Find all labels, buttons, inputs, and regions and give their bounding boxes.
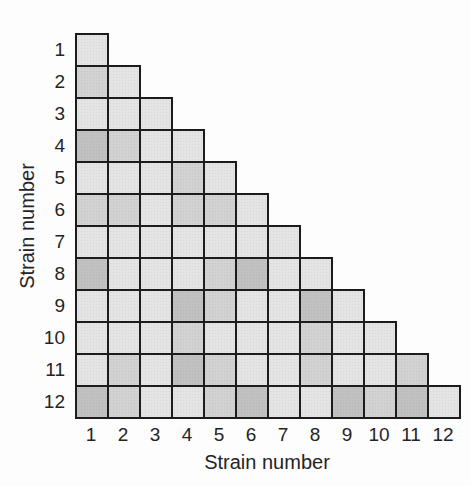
matrix-cell-r4-c1 bbox=[75, 129, 109, 163]
matrix-cell-r9-c1 bbox=[75, 289, 109, 323]
matrix-cell-r11-c11 bbox=[395, 353, 429, 387]
y-tick-label-3: 3 bbox=[40, 97, 75, 131]
y-tick-label-9: 9 bbox=[40, 289, 75, 323]
matrix-cell-r11-c5 bbox=[203, 353, 237, 387]
matrix-cell-r4-c2 bbox=[107, 129, 141, 163]
matrix-cell-r7-c6 bbox=[235, 225, 269, 259]
matrix-cell-r8-c6 bbox=[235, 257, 269, 291]
matrix-cell-r10-c7 bbox=[267, 321, 301, 355]
matrix-cell-r12-c3 bbox=[139, 385, 173, 419]
matrix-cell-r9-c3 bbox=[139, 289, 173, 323]
y-tick-label-6: 6 bbox=[40, 193, 75, 227]
matrix-cell-r8-c3 bbox=[139, 257, 173, 291]
matrix-cell-r5-c4 bbox=[171, 161, 205, 195]
matrix-cell-r11-c8 bbox=[299, 353, 333, 387]
matrix-cell-r9-c8 bbox=[299, 289, 333, 323]
x-tick-label-6: 6 bbox=[235, 424, 267, 446]
matrix-cell-r7-c2 bbox=[107, 225, 141, 259]
matrix-cell-r8-c8 bbox=[299, 257, 333, 291]
y-tick-label-7: 7 bbox=[40, 225, 75, 259]
matrix-row-1: 1 bbox=[40, 33, 461, 67]
y-tick-label-11: 11 bbox=[40, 353, 75, 387]
y-tick-label-8: 8 bbox=[40, 257, 75, 291]
matrix-cell-r10-c6 bbox=[235, 321, 269, 355]
matrix-row-6: 6 bbox=[40, 193, 461, 227]
matrix-cell-r8-c1 bbox=[75, 257, 109, 291]
matrix-cell-r8-c7 bbox=[267, 257, 301, 291]
matrix-cell-r2-c1 bbox=[75, 65, 109, 99]
matrix-row-11: 11 bbox=[40, 353, 461, 387]
strain-similarity-matrix-figure: Strain number 123456789101112 1234567891… bbox=[0, 0, 471, 486]
matrix-cell-r6-c4 bbox=[171, 193, 205, 227]
x-axis-title: Strain number bbox=[75, 451, 459, 474]
matrix-cell-r5-c5 bbox=[203, 161, 237, 195]
matrix-cell-r6-c2 bbox=[107, 193, 141, 227]
y-tick-label-4: 4 bbox=[40, 129, 75, 163]
matrix-cell-r11-c7 bbox=[267, 353, 301, 387]
matrix-cell-r1-c1 bbox=[75, 33, 109, 67]
matrix-cell-r9-c6 bbox=[235, 289, 269, 323]
matrix-cell-r9-c4 bbox=[171, 289, 205, 323]
matrix-row-12: 12 bbox=[40, 385, 461, 419]
matrix-cell-r11-c4 bbox=[171, 353, 205, 387]
matrix-cell-r4-c4 bbox=[171, 129, 205, 163]
matrix-cell-r10-c8 bbox=[299, 321, 333, 355]
triangular-matrix: 123456789101112 bbox=[40, 33, 461, 419]
matrix-cell-r9-c5 bbox=[203, 289, 237, 323]
matrix-cell-r10-c10 bbox=[363, 321, 397, 355]
x-tick-label-1: 1 bbox=[75, 424, 107, 446]
matrix-cell-r9-c9 bbox=[331, 289, 365, 323]
matrix-cell-r11-c10 bbox=[363, 353, 397, 387]
y-tick-label-2: 2 bbox=[40, 65, 75, 99]
matrix-cell-r9-c2 bbox=[107, 289, 141, 323]
matrix-cell-r12-c4 bbox=[171, 385, 205, 419]
matrix-cell-r12-c10 bbox=[363, 385, 397, 419]
matrix-cell-r12-c7 bbox=[267, 385, 301, 419]
matrix-cell-r5-c3 bbox=[139, 161, 173, 195]
matrix-cell-r6-c5 bbox=[203, 193, 237, 227]
matrix-row-4: 4 bbox=[40, 129, 461, 163]
y-axis-title: Strain number bbox=[16, 46, 40, 406]
matrix-cell-r4-c3 bbox=[139, 129, 173, 163]
matrix-cell-r10-c4 bbox=[171, 321, 205, 355]
matrix-cell-r12-c8 bbox=[299, 385, 333, 419]
matrix-cell-r12-c2 bbox=[107, 385, 141, 419]
matrix-cell-r2-c2 bbox=[107, 65, 141, 99]
matrix-row-9: 9 bbox=[40, 289, 461, 323]
x-tick-label-2: 2 bbox=[107, 424, 139, 446]
x-tick-label-5: 5 bbox=[203, 424, 235, 446]
matrix-row-2: 2 bbox=[40, 65, 461, 99]
matrix-cell-r11-c6 bbox=[235, 353, 269, 387]
matrix-cell-r10-c3 bbox=[139, 321, 173, 355]
matrix-cell-r7-c3 bbox=[139, 225, 173, 259]
matrix-cell-r12-c6 bbox=[235, 385, 269, 419]
matrix-cell-r6-c3 bbox=[139, 193, 173, 227]
matrix-cell-r12-c9 bbox=[331, 385, 365, 419]
x-axis-tick-labels: 123456789101112 bbox=[75, 424, 459, 446]
matrix-cell-r5-c2 bbox=[107, 161, 141, 195]
matrix-cell-r8-c4 bbox=[171, 257, 205, 291]
matrix-cell-r11-c1 bbox=[75, 353, 109, 387]
matrix-row-7: 7 bbox=[40, 225, 461, 259]
matrix-cell-r7-c4 bbox=[171, 225, 205, 259]
x-tick-label-11: 11 bbox=[395, 424, 427, 446]
matrix-cell-r3-c2 bbox=[107, 97, 141, 131]
matrix-cell-r10-c9 bbox=[331, 321, 365, 355]
matrix-cell-r10-c2 bbox=[107, 321, 141, 355]
matrix-cell-r10-c5 bbox=[203, 321, 237, 355]
matrix-cell-r8-c2 bbox=[107, 257, 141, 291]
y-tick-label-10: 10 bbox=[40, 321, 75, 355]
matrix-cell-r7-c1 bbox=[75, 225, 109, 259]
matrix-row-10: 10 bbox=[40, 321, 461, 355]
matrix-cell-r6-c1 bbox=[75, 193, 109, 227]
matrix-row-8: 8 bbox=[40, 257, 461, 291]
matrix-cell-r7-c5 bbox=[203, 225, 237, 259]
matrix-row-5: 5 bbox=[40, 161, 461, 195]
matrix-cell-r11-c2 bbox=[107, 353, 141, 387]
y-tick-label-12: 12 bbox=[40, 385, 75, 419]
matrix-cell-r10-c1 bbox=[75, 321, 109, 355]
x-tick-label-9: 9 bbox=[331, 424, 363, 446]
matrix-cell-r8-c5 bbox=[203, 257, 237, 291]
matrix-cell-r12-c11 bbox=[395, 385, 429, 419]
matrix-cell-r5-c1 bbox=[75, 161, 109, 195]
